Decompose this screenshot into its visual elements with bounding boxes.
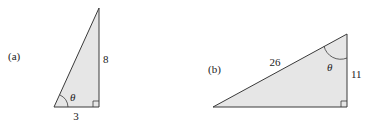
angle-a-theta: θ: [70, 91, 76, 103]
figure-a-label: (a): [8, 50, 21, 63]
side-b-vertical: 11: [351, 68, 362, 80]
triangle-a-shape: [54, 8, 99, 107]
triangle-a: (a) 8 3 θ: [8, 8, 109, 122]
angle-b-theta: θ: [327, 61, 333, 73]
figure-b-label: (b): [208, 63, 221, 76]
side-a-vertical: 8: [103, 53, 109, 65]
side-b-hypotenuse: 26: [270, 56, 282, 68]
side-a-horizontal: 3: [73, 110, 79, 122]
triangle-b: (b) 26 11 θ: [208, 34, 362, 107]
diagram: (a) 8 3 θ (b) 26 11 θ: [0, 0, 374, 125]
